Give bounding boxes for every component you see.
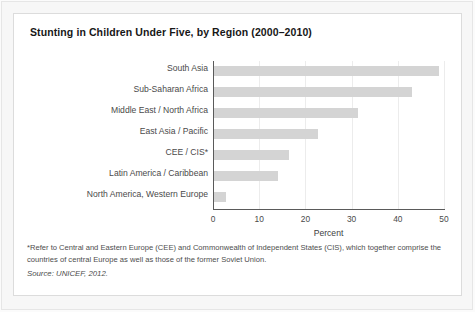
bar bbox=[214, 108, 358, 118]
category-label-wrap: CEE / CIS* bbox=[18, 145, 208, 166]
gridline-50 bbox=[444, 61, 445, 209]
x-tick-label: 40 bbox=[383, 214, 413, 224]
bar-row: East Asia / Pacific bbox=[213, 124, 444, 145]
category-label: South Asia bbox=[18, 63, 208, 73]
bar-row: North America, Western Europe bbox=[213, 187, 444, 208]
bar-row: CEE / CIS* bbox=[213, 145, 444, 166]
x-tick-label: 30 bbox=[337, 214, 367, 224]
category-label: CEE / CIS* bbox=[18, 147, 208, 157]
category-label: Latin America / Caribbean bbox=[18, 168, 208, 178]
category-label-wrap: Middle East / North Africa bbox=[18, 103, 208, 124]
category-label: Sub-Saharan Africa bbox=[18, 84, 208, 94]
category-label: East Asia / Pacific bbox=[18, 126, 208, 136]
bar bbox=[214, 66, 439, 76]
bar-row: Latin America / Caribbean bbox=[213, 166, 444, 187]
bar bbox=[214, 192, 226, 202]
bar-row: South Asia bbox=[213, 61, 444, 82]
figure-footnote: *Refer to Central and Eastern Europe (CE… bbox=[27, 242, 451, 265]
x-axis-line bbox=[213, 209, 445, 210]
x-tick-label: 0 bbox=[198, 214, 228, 224]
bar bbox=[214, 171, 278, 181]
bar bbox=[214, 150, 289, 160]
bar bbox=[214, 129, 318, 139]
figure-source: Source: UNICEF, 2012. bbox=[27, 269, 108, 278]
x-tick-label: 10 bbox=[244, 214, 274, 224]
figure-page: Stunting in Children Under Five, by Regi… bbox=[0, 0, 475, 312]
category-label: Middle East / North Africa bbox=[18, 105, 208, 115]
bar-row: Middle East / North Africa bbox=[213, 103, 444, 124]
category-label-wrap: North America, Western Europe bbox=[18, 187, 208, 208]
x-tick-label: 20 bbox=[290, 214, 320, 224]
category-label-wrap: South Asia bbox=[18, 61, 208, 82]
bar bbox=[214, 87, 412, 97]
plot-area: South AsiaSub-Saharan AfricaMiddle East … bbox=[213, 61, 444, 209]
x-tick-label: 50 bbox=[429, 214, 459, 224]
category-label: North America, Western Europe bbox=[18, 189, 208, 199]
category-label-wrap: Latin America / Caribbean bbox=[18, 166, 208, 187]
x-axis-title: Percent bbox=[213, 228, 444, 238]
category-label-wrap: East Asia / Pacific bbox=[18, 124, 208, 145]
figure-card: Stunting in Children Under Five, by Regi… bbox=[13, 13, 462, 296]
bar-row: Sub-Saharan Africa bbox=[213, 82, 444, 103]
category-label-wrap: Sub-Saharan Africa bbox=[18, 82, 208, 103]
